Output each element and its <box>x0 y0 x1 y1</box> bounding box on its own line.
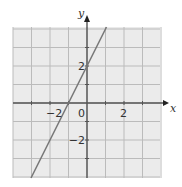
y-axis-label: y <box>77 7 85 20</box>
x-tick-label: 2 <box>120 107 127 120</box>
x-axis-label: x <box>170 102 177 115</box>
x-tick-label: 0 <box>78 107 85 120</box>
x-axis-arrow-icon <box>163 100 169 106</box>
y-tick-label: −2 <box>69 134 85 147</box>
y-axis-arrow-icon <box>84 15 90 22</box>
y-tick-label: 2 <box>78 60 85 73</box>
x-tick-label: −2 <box>46 107 62 120</box>
coordinate-plane: −2022−2 x y <box>0 0 182 187</box>
